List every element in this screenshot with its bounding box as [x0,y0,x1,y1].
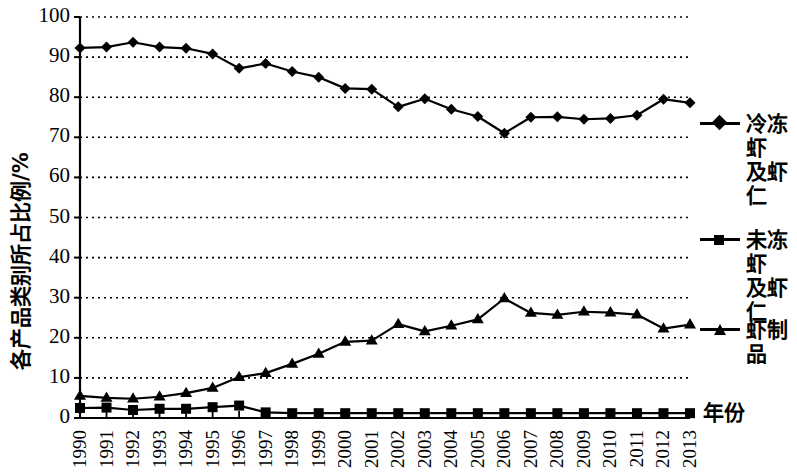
y-tick-label-10: 10 [26,364,70,389]
x-tick-label-1998: 1998 [281,430,303,472]
x-tick-label-1996: 1996 [228,430,250,472]
series-1 [75,37,696,139]
x-tick-label-1990: 1990 [69,430,91,472]
legend-marker-diamond-icon [700,112,740,134]
x-tick-label-2007: 2007 [520,430,542,472]
x-tick-label-2008: 2008 [546,430,568,472]
series-2 [75,401,695,419]
y-tick-label-60: 60 [26,163,70,188]
x-tick-label-2009: 2009 [573,430,595,472]
y-tick-label-30: 30 [26,284,70,309]
y-tick-label-40: 40 [26,244,70,269]
y-tick-label-80: 80 [26,83,70,108]
legend-label-1: 冷冻虾 及虾仁 [746,112,797,209]
legend-marker-triangle-icon [700,318,740,340]
legend-item-3: 虾制品 [700,318,797,366]
y-tick-label-20: 20 [26,324,70,349]
x-tick-label-2011: 2011 [626,430,648,472]
y-tick-label-0: 0 [26,404,70,429]
x-tick-label-2004: 2004 [440,430,462,472]
legend-item-2: 未冻虾 及虾仁 [700,228,797,325]
x-tick-label-1999: 1999 [308,430,330,472]
legend-item-1: 冷冻虾 及虾仁 [700,112,797,209]
legend-marker-square-icon [700,228,740,250]
x-tick-label-1992: 1992 [122,430,144,472]
x-tick-label-2010: 2010 [599,430,621,472]
data-series-layer [74,37,696,418]
series-3 [74,292,696,403]
x-tick-label-2013: 2013 [679,430,701,472]
y-tick-label-70: 70 [26,123,70,148]
x-axis-label: 年份 [703,396,745,426]
y-tick-label-50: 50 [26,204,70,229]
x-tick-label-2002: 2002 [387,430,409,472]
x-tick-label-1995: 1995 [202,430,224,472]
legend-label-3: 虾制品 [746,318,797,366]
x-tick-label-1993: 1993 [149,430,171,472]
x-tick-label-2000: 2000 [334,430,356,472]
x-tick-label-2005: 2005 [467,430,489,472]
x-tick-label-2001: 2001 [361,430,383,472]
x-tick-label-1994: 1994 [175,430,197,472]
gridlines-group [80,17,690,418]
x-tick-label-2012: 2012 [652,430,674,472]
x-tick-label-1997: 1997 [255,430,277,472]
y-tick-label-100: 100 [26,3,70,28]
x-tick-label-2006: 2006 [493,430,515,472]
x-tick-label-2003: 2003 [414,430,436,472]
x-tick-label-1991: 1991 [96,430,118,472]
y-tick-label-90: 90 [26,43,70,68]
legend-label-2: 未冻虾 及虾仁 [746,228,797,325]
